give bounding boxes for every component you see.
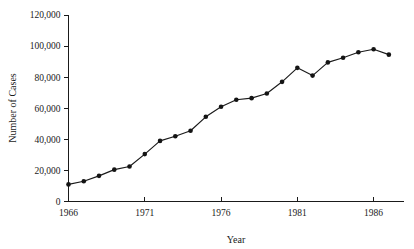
data-point [142,152,147,157]
y-tick-label: 40,000 [34,135,60,145]
y-tick-label: 100,000 [30,41,61,51]
data-point [310,73,315,78]
data-point [280,80,285,85]
data-point [387,52,392,57]
y-axis-title: Number of Cases [7,73,18,143]
x-tick-label: 1971 [135,208,154,218]
data-point [204,115,209,120]
data-point [158,139,163,144]
data-point [66,182,71,187]
data-point [326,60,331,65]
data-point [173,134,178,139]
chart-container: 020,00040,00060,00080,000100,000120,000 … [0,0,414,249]
data-point [371,47,376,52]
data-point [295,66,300,71]
x-tick-label: 1976 [212,208,231,218]
data-point [356,50,361,55]
data-point [188,128,193,133]
y-tick-label: 80,000 [34,73,60,83]
x-tick-label: 1966 [59,208,78,218]
data-point [97,174,102,179]
data-point [234,97,239,102]
y-tick-label: 60,000 [34,104,60,114]
data-point [81,179,86,184]
data-point [265,91,270,96]
x-tick-label: 1981 [288,208,307,218]
data-point [249,96,254,101]
data-point [219,104,224,109]
data-point [127,164,132,169]
x-tick-label: 1986 [364,208,383,218]
y-tick-label: 120,000 [30,10,61,20]
x-axis-title: Year [227,234,246,245]
line-chart-plot: 020,00040,00060,00080,000100,000120,000 … [0,0,414,249]
y-tick-label: 20,000 [34,166,60,176]
data-point [341,55,346,60]
data-point [112,167,117,172]
y-tick-label: 0 [56,197,61,207]
